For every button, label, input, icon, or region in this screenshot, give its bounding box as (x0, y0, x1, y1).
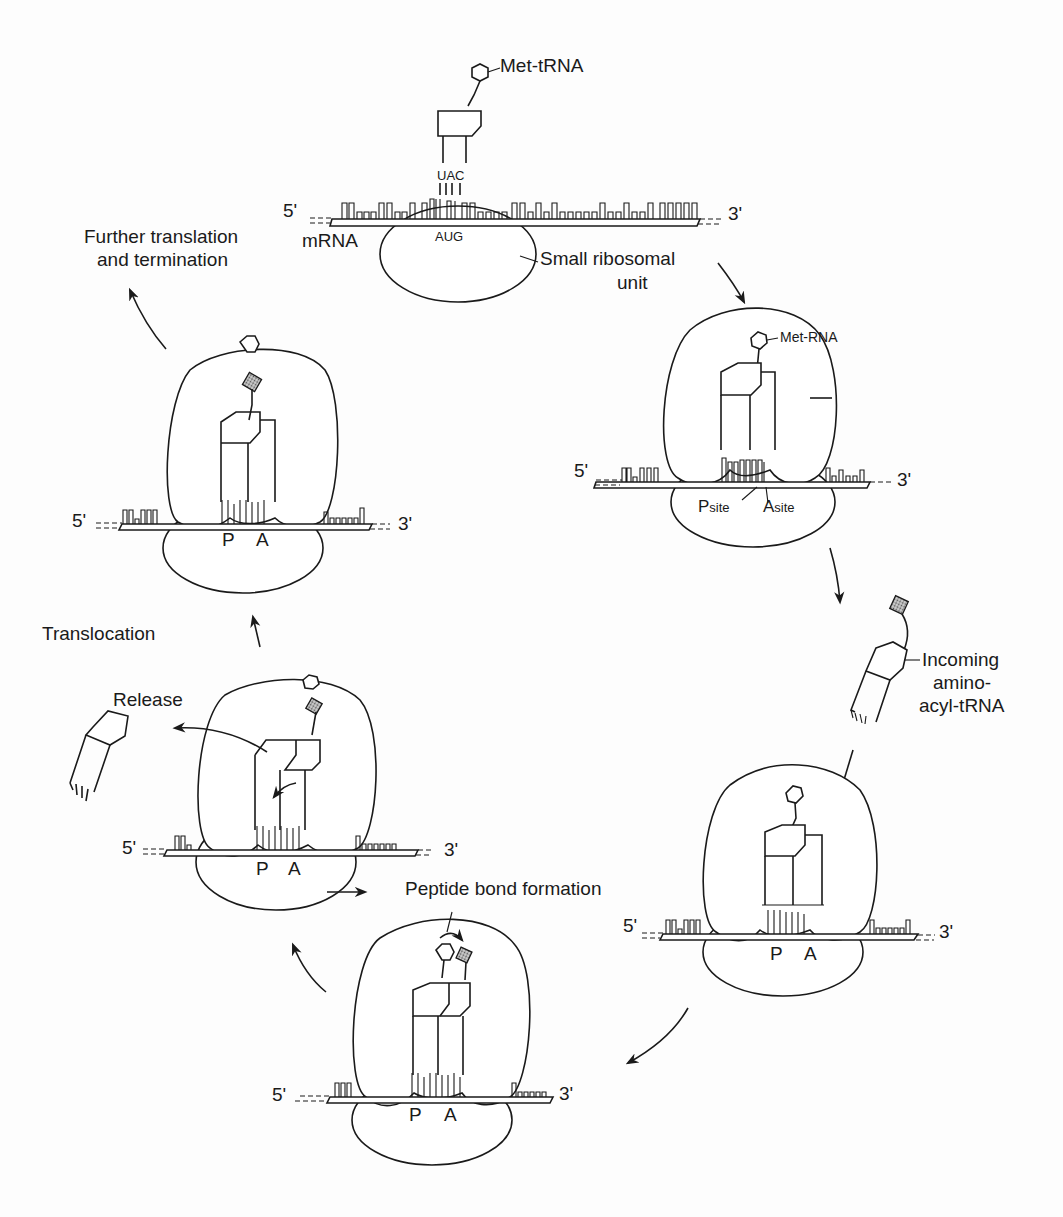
stage-assembled (594, 308, 893, 547)
p-site-label: P (222, 529, 235, 550)
a-site-label: A (256, 529, 269, 550)
five-prime-label: 5' (623, 915, 637, 936)
p-site-label: P (770, 943, 783, 964)
five-prime-label: 5' (283, 200, 297, 221)
a-site-label: Asite (763, 497, 795, 516)
met-rna-label: Met-RNA (780, 329, 838, 345)
arrow-initiation-to-assembly (718, 263, 744, 302)
three-prime-label: 3' (559, 1083, 573, 1104)
three-prime-label: 3' (939, 921, 953, 942)
three-prime-label: 3' (897, 469, 911, 490)
further-label-2: and termination (97, 249, 228, 270)
incoming-label-1: Incoming (922, 649, 999, 670)
small-subunit-label-2: unit (617, 272, 648, 293)
incoming-label-3: acyl-tRNA (919, 695, 1005, 716)
arrow-translocation (253, 617, 260, 647)
further-label-1: Further translation (84, 226, 238, 247)
stage-further (96, 336, 390, 593)
codon-label: AUG (435, 229, 463, 244)
a-site-label: A (444, 1104, 457, 1125)
amino-acid-square-icon (890, 596, 909, 615)
met-trna-label: Met-tRNA (500, 55, 584, 76)
translocation-label: Translocation (42, 623, 155, 644)
arrow-further-translation (130, 290, 166, 349)
a-site-label: A (804, 943, 817, 964)
arrow-assembly-to-incoming (830, 548, 840, 602)
five-prime-label: 5' (72, 510, 86, 531)
three-prime-label: 3' (398, 513, 412, 534)
five-prime-label: 5' (574, 460, 588, 481)
incoming-label-2: amino- (933, 672, 991, 693)
p-site-label: Psite (698, 497, 730, 516)
arrow-peptide-to-release (293, 945, 326, 992)
mrna-label: mRNA (302, 230, 358, 251)
peptide-hexagon-icon (240, 336, 259, 352)
p-site-label: P (256, 858, 269, 879)
five-prime-label: 5' (272, 1084, 286, 1105)
diagram-svg: Met-tRNA UAC AUG 5' 3' mRNA Small riboso… (0, 0, 1063, 1217)
methionine-hexagon-icon (472, 64, 488, 81)
small-subunit-label: Small ribosomal (540, 248, 675, 269)
peptide-hexagon-icon (303, 675, 319, 689)
stage-peptide-bond (295, 912, 553, 1165)
three-prime-label: 3' (728, 203, 742, 224)
released-trna (70, 711, 128, 801)
translation-cycle-diagram: Met-tRNA UAC AUG 5' 3' mRNA Small riboso… (0, 0, 1063, 1217)
five-prime-label: 5' (122, 837, 136, 858)
stage-incoming-binding (642, 765, 935, 996)
arrow-incoming-to-peptide (628, 1008, 688, 1063)
mrna-strand (310, 199, 722, 226)
a-site-label: A (288, 858, 301, 879)
release-label: Release (113, 689, 183, 710)
p-site-label: P (409, 1104, 422, 1125)
stage-initiation: Met-tRNA UAC AUG 5' 3' mRNA Small riboso… (283, 55, 742, 302)
three-prime-label: 3' (444, 839, 458, 860)
anticodon-label: UAC (437, 168, 464, 183)
peptide-bond-label: Peptide bond formation (405, 878, 601, 899)
